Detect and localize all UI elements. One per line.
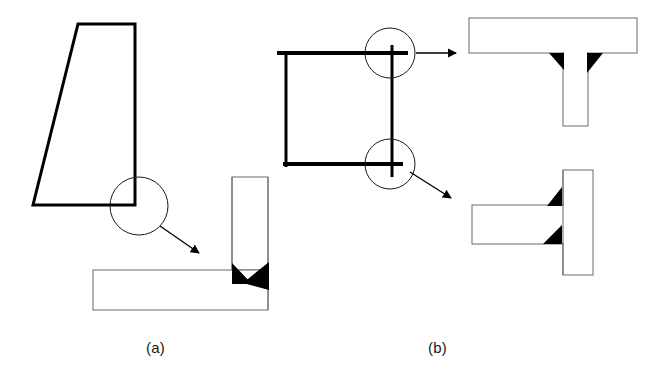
detail-a-vertical-member bbox=[232, 177, 268, 270]
welded-joint-detail-figure: (a) (b) bbox=[0, 0, 661, 378]
panel-a-caption: (a) bbox=[146, 339, 165, 356]
detail-b-bottom-vertical-member bbox=[563, 170, 593, 275]
detail-b-top-joint-clear bbox=[564, 52, 587, 55]
detail-b-top-vertical-member bbox=[563, 53, 588, 126]
panel-b-caption: (b) bbox=[428, 339, 447, 356]
figure-canvas bbox=[0, 0, 661, 378]
detail-b-top-horizontal-member bbox=[469, 18, 637, 53]
